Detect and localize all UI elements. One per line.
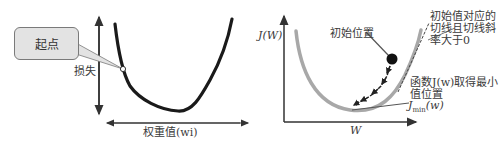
start-point-callout: 起点 bbox=[14, 27, 79, 60]
minimum-label: Jmin(w) bbox=[408, 100, 444, 116]
cost-curve bbox=[296, 30, 421, 111]
callout-text: 起点 bbox=[35, 35, 59, 52]
descent-path bbox=[355, 66, 390, 105]
tangent-note: 初始值对应的 切线且切线斜 率大于0 bbox=[430, 11, 496, 47]
left-x-axis-label: 权重值(wi) bbox=[143, 127, 198, 139]
right-y-axis-label: J(W) bbox=[258, 30, 282, 42]
initial-position-label: 初始位置 bbox=[330, 28, 374, 40]
left-chart bbox=[76, 17, 248, 123]
left-y-axis-label: 损失 bbox=[74, 66, 96, 78]
start-point-marker bbox=[120, 66, 125, 71]
initial-position-point bbox=[387, 54, 398, 65]
tangent-note-line-3: 率大于0 bbox=[430, 35, 496, 47]
minimum-note: 函数J(w)取得最小 值位置 bbox=[410, 77, 498, 101]
right-x-axis-label: W bbox=[350, 125, 361, 137]
loss-curve bbox=[115, 19, 232, 111]
